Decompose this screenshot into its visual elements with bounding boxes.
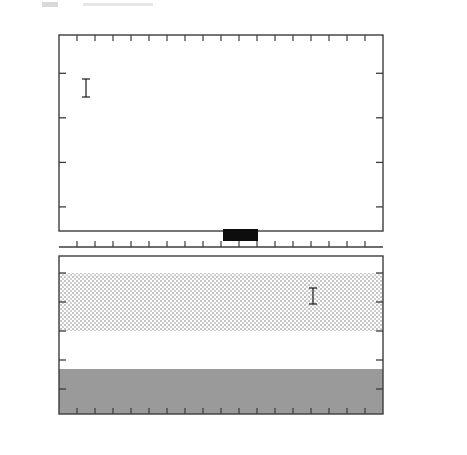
mid-axis: [59, 241, 383, 247]
soils-band: [59, 273, 383, 331]
groundwater-band: [59, 369, 383, 414]
figure-root: [0, 0, 467, 455]
event-bar: [223, 229, 258, 241]
plot-canvas: [0, 0, 467, 455]
bottom-panel: [59, 256, 383, 414]
top-panel: [59, 35, 383, 231]
top-panel-background: [59, 35, 383, 231]
